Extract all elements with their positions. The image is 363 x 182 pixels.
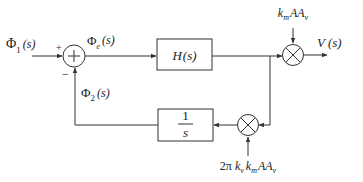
integrator-numerator: 1 <box>182 108 189 123</box>
diagram-svg: Φ1(s) + − Φe(s) H(s) kmAAv V(s) 1 s 2πkv… <box>0 0 363 182</box>
output-gain-label: kmAAv <box>278 6 309 22</box>
integrator-denominator: s <box>183 125 188 140</box>
feedback-gain-label: 2πkvkmAAv <box>220 159 277 175</box>
pickoff-branch <box>259 56 270 125</box>
plus-sign: + <box>56 42 62 53</box>
output-label: V(s) <box>317 35 342 50</box>
error-signal-label: Φe(s) <box>87 33 115 51</box>
phase-locked-loop-block-diagram: Φ1(s) + − Φe(s) H(s) kmAAv V(s) 1 s 2πkv… <box>0 0 363 182</box>
minus-sign: − <box>62 67 69 81</box>
forward-block-label: H(s) <box>171 48 196 63</box>
input-label: Φ1(s) <box>6 36 35 55</box>
feedback-signal-label: Φ2(s) <box>81 85 110 103</box>
